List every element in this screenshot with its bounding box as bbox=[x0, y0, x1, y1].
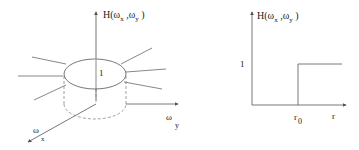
h-axis-label: H(ωx ,ωy ) bbox=[103, 9, 145, 23]
wx-label: ω bbox=[33, 125, 39, 135]
cylinder-top-ellipse bbox=[64, 59, 126, 89]
right-step-diagram: H(ωx ,ωy ) 1 r 0 r bbox=[240, 10, 346, 126]
wy-label: ω bbox=[166, 112, 172, 122]
x-tick-r0-sub: 0 bbox=[298, 117, 302, 126]
wx-sub: x bbox=[41, 135, 45, 143]
r-axis-label: r bbox=[332, 111, 335, 121]
x-tick-r0: r bbox=[294, 112, 297, 122]
y-tick-1: 1 bbox=[240, 59, 245, 69]
diagram-canvas: 1 H(ωx ,ωy ) ω y ω x H(ωx ,ωy ) 1 r 0 r bbox=[0, 0, 359, 150]
wy-sub: y bbox=[175, 121, 179, 130]
value-label: 1 bbox=[99, 68, 104, 78]
h-axis-label-right: H(ωx ,ωy ) bbox=[257, 10, 299, 24]
left-3d-diagram: 1 H(ωx ,ωy ) ω y ω x bbox=[18, 9, 179, 143]
wx-axis bbox=[28, 104, 96, 142]
step-curve bbox=[298, 64, 342, 105]
